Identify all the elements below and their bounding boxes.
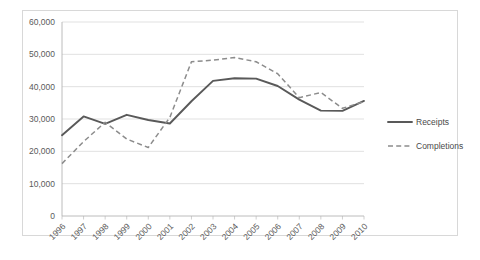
y-axis-tick-label: 40,000 [29,82,55,92]
x-axis-tick-label: 2006 [263,221,284,242]
y-axis-tick-label: 10,000 [29,179,55,189]
x-axis-tick-label: 2007 [284,221,305,242]
x-axis-tick-label: 2008 [306,221,327,242]
y-axis-tick-label: 0 [50,211,55,221]
series-line-completions [62,58,364,164]
line-chart: 010,00020,00030,00040,00050,00060,000 19… [0,0,480,260]
x-axis-tick-label: 2004 [220,221,241,242]
x-axis-tick-marks [62,216,364,220]
chart-legend: ReceiptsCompletions [388,117,463,151]
x-axis-tick-label: 2003 [198,221,219,242]
x-axis-tick-label: 2005 [241,221,262,242]
y-axis-tick-labels: 010,00020,00030,00040,00050,00060,000 [29,17,55,221]
gridlines-group [62,22,364,184]
y-axis-tick-label: 60,000 [29,17,55,27]
x-axis-tick-labels: 1996199719981999200020012002200320042005… [47,221,370,242]
legend-label-completions: Completions [416,141,463,151]
y-axis-tick-label: 50,000 [29,49,55,59]
x-axis-tick-label: 2009 [327,221,348,242]
x-axis-tick-label: 1999 [112,221,133,242]
x-axis-tick-label: 1996 [47,221,68,242]
x-axis-tick-label: 2010 [349,221,370,242]
x-axis-tick-label: 1998 [90,221,111,242]
x-axis-tick-label: 1997 [69,221,90,242]
x-axis-tick-label: 2001 [155,221,176,242]
y-axis-tick-label: 20,000 [29,146,55,156]
x-axis-tick-label: 2002 [176,221,197,242]
legend-label-receipts: Receipts [416,117,449,127]
x-axis-tick-label: 2000 [133,221,154,242]
y-axis-tick-label: 30,000 [29,114,55,124]
